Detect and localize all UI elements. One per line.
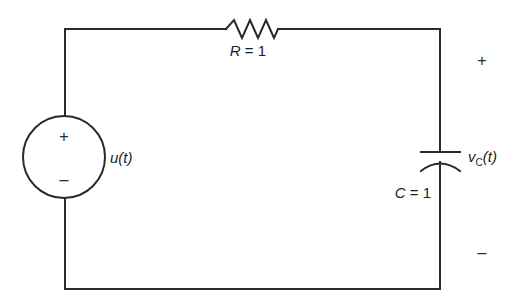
resistor-icon xyxy=(226,20,278,38)
capacitor-value: 1 xyxy=(423,184,431,201)
source-plus-sign: + xyxy=(59,128,68,145)
resistor-value: 1 xyxy=(258,42,266,59)
capacitor-label: C = 1 xyxy=(395,184,431,201)
source-minus-sign: – xyxy=(60,171,69,188)
output-minus-sign: – xyxy=(478,244,487,261)
resistor-symbol: R xyxy=(230,42,241,59)
capacitor-symbol: C xyxy=(395,184,406,201)
capacitor-voltage-label: vC(t) xyxy=(468,148,497,168)
source-label: u(t) xyxy=(110,149,133,166)
output-plus-sign: + xyxy=(477,52,486,69)
rc-circuit-diagram: + – u(t) R = 1 C = 1 vC(t) + – xyxy=(0,0,526,306)
resistor-label: R = 1 xyxy=(230,42,266,59)
